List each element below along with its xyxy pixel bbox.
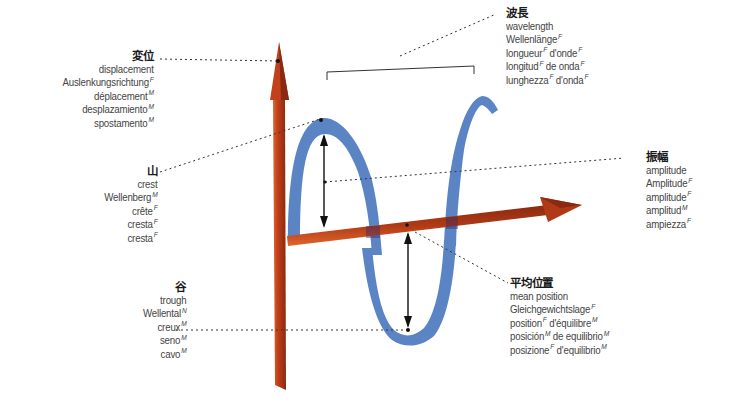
vertical-axis-arrow: [270, 42, 289, 390]
term-spanish: senoM: [142, 334, 186, 347]
amplitude-heading: 振幅: [646, 150, 699, 164]
trough-heading: 谷: [137, 280, 186, 294]
label-amplitude: 振幅 amplitude AmplitudeF amplitudeF ampli…: [646, 150, 699, 231]
horizontal-axis-arrow: [287, 197, 582, 246]
term-german: WellenbergM: [105, 191, 158, 204]
term-italian: cavoM: [142, 348, 186, 361]
term-italian: posizioneF d'equilibrioM: [510, 344, 609, 357]
term-spanish: amplitudM: [646, 204, 692, 217]
label-crest: 山 crest WellenbergM crêteF crestaF crest…: [97, 164, 158, 245]
term-english: amplitude: [646, 164, 692, 177]
term-german: WellentalN: [142, 307, 186, 320]
term-spanish: posiciónM de equilibrioM: [510, 330, 609, 343]
term-german: AmplitudeF: [646, 177, 692, 190]
term-english: displacement: [63, 63, 154, 76]
label-trough: 谷 trough WellentalN creuxM senoM cavoM: [137, 280, 186, 361]
wavelength-bracket: [327, 66, 474, 80]
term-english: trough: [142, 294, 186, 307]
term-french: crêteF: [105, 205, 158, 218]
term-spanish: desplazamientoM: [63, 103, 154, 116]
leader-mean-position: [415, 232, 508, 283]
term-italian: lunghezzaF d'ondaF: [506, 74, 588, 87]
wave-diagram: 変位 displacement AuslenkungsrichtungF dép…: [0, 0, 736, 417]
leader-displacement: [160, 59, 278, 61]
label-displacement: 変位 displacement AuslenkungsrichtungF dép…: [50, 49, 154, 130]
mean-position-heading: 平均位置: [510, 276, 622, 290]
term-italian: crestaF: [105, 232, 158, 245]
term-italian: spostamentoM: [63, 117, 154, 130]
term-french: positionF d'équilibreM: [510, 317, 609, 330]
term-spanish: longitudF de ondaF: [506, 60, 588, 73]
term-italian: ampiezzaF: [646, 218, 692, 231]
term-spanish: crestaF: [105, 218, 158, 231]
leader-wavelength: [400, 14, 496, 56]
term-english: crest: [105, 178, 158, 191]
crest-heading: 山: [97, 164, 158, 178]
label-mean-position: 平均位置 mean position GleichgewichtslageF p…: [510, 276, 622, 357]
term-french: creuxM: [142, 321, 186, 334]
amplitude-arrow-down: [404, 232, 412, 328]
displacement-heading: 変位: [50, 49, 154, 63]
term-english: wavelength: [506, 20, 588, 33]
label-wavelength: 波長 wavelength WellenlängeF longueurF d'o…: [506, 6, 600, 87]
term-french: longueurF d'ondeF: [506, 47, 588, 60]
wavelength-heading: 波長: [506, 6, 600, 20]
term-german: AuslenkungsrichtungF: [63, 76, 154, 89]
term-french: déplacementM: [63, 90, 154, 103]
